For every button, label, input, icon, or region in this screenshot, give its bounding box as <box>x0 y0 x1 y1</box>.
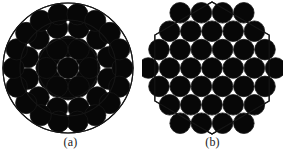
fiber-r5-c3 <box>223 95 244 116</box>
fiber-r4-c1 <box>170 76 191 97</box>
fiber-r4-c0 <box>149 76 170 97</box>
panel-a-artwork <box>0 0 141 138</box>
fiber-r2-c4 <box>234 39 255 60</box>
hexagonal-bundle-diagram <box>142 0 283 138</box>
fiber-core <box>57 57 78 78</box>
fiber-r4-c5 <box>255 76 276 97</box>
fiber-outer-ring-13 <box>48 4 69 25</box>
fiber-r3-c3 <box>202 58 223 79</box>
fiber-r5-c2 <box>202 95 223 116</box>
fiber-r3-c6 <box>265 58 283 79</box>
fiber-r3-c4 <box>223 58 244 79</box>
fiber-r2-c1 <box>170 39 191 60</box>
panel-b-artwork <box>142 0 283 138</box>
fiber-r3-c1 <box>159 58 180 79</box>
fiber-r1-c3 <box>223 21 244 42</box>
fiber-inner-ring-4 <box>47 39 68 60</box>
fiber-r1-c1 <box>181 21 202 42</box>
circular-bundle-diagram <box>0 0 141 138</box>
fiber-r2-c5 <box>255 39 276 60</box>
fiber-r4-c3 <box>212 76 233 97</box>
fiber-r3-c0 <box>142 58 159 79</box>
fiber-outer-ring-4 <box>67 111 88 132</box>
fiber-r3-c2 <box>181 58 202 79</box>
fiber-inner-ring-1 <box>68 76 89 97</box>
fiber-r2-c0 <box>149 39 170 60</box>
fiber-r2-c2 <box>191 39 212 60</box>
figure-container: (a) (b) <box>0 0 283 166</box>
fiber-r3-c5 <box>244 58 265 79</box>
fiber-inner-ring-5 <box>68 39 89 60</box>
fiber-r4-c2 <box>191 76 212 97</box>
panel-b: (b) <box>142 0 283 166</box>
fiber-r1-c2 <box>202 21 223 42</box>
fiber-r2-c3 <box>212 39 233 60</box>
fiber-inner-ring-2 <box>47 76 68 97</box>
fiber-r5-c1 <box>181 95 202 116</box>
panel-a: (a) <box>0 0 141 166</box>
fiber-r4-c4 <box>234 76 255 97</box>
